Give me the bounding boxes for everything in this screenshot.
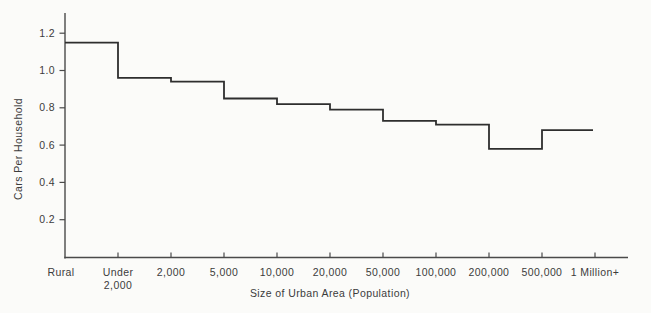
y-tick-label: 0.8 [39, 101, 55, 113]
x-tick-label: 100,000 [416, 266, 457, 278]
step-line [65, 43, 593, 149]
x-tick-label: 1 Million+ [571, 266, 620, 278]
x-axis-title: Size of Urban Area (Population) [65, 287, 595, 299]
y-tick-label: 0.2 [39, 213, 55, 225]
y-axis-title: Cars Per Household [12, 49, 24, 249]
y-tick-label: 1.2 [39, 27, 55, 39]
y-tick-label: 0.4 [39, 176, 55, 188]
x-tick-label: 500,000 [522, 266, 563, 278]
x-tick-label: 5,000 [210, 266, 238, 278]
step-chart-canvas: 0.20.40.60.81.01.2RuralUnder2,0002,0005,… [0, 0, 651, 313]
x-tick-label: 20,000 [313, 266, 348, 278]
x-tick-label: 50,000 [366, 266, 401, 278]
y-tick-label: 0.6 [39, 139, 55, 151]
x-tick-label: Rural [47, 266, 74, 278]
cars-per-household-step-chart: 0.20.40.60.81.01.2RuralUnder2,0002,0005,… [0, 0, 651, 313]
x-tick-label: 2,000 [157, 266, 185, 278]
x-tick-label: 10,000 [260, 266, 295, 278]
x-tick-label: 200,000 [469, 266, 510, 278]
y-tick-label: 1.0 [39, 64, 55, 76]
x-tick-label: Under [103, 266, 134, 278]
